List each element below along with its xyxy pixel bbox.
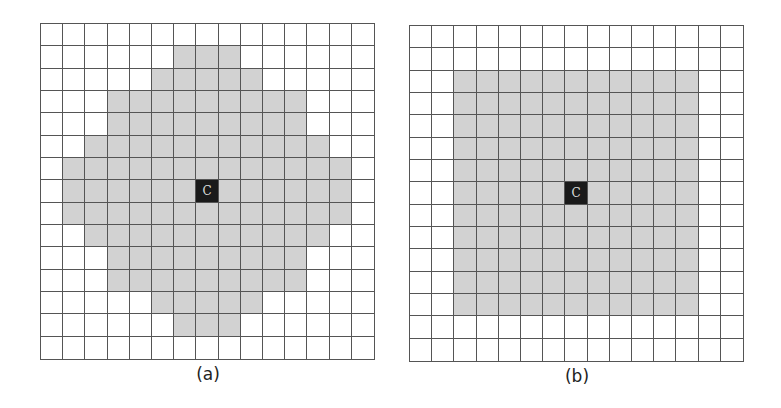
empty-cell [499,26,521,48]
neighborhood-cell [610,71,632,93]
empty-cell [63,91,85,113]
neighborhood-cell [654,294,676,316]
neighborhood-cell [219,158,241,180]
neighborhood-cell [307,180,329,202]
neighborhood-cell [174,270,196,292]
neighborhood-cell [454,227,476,249]
empty-cell [85,337,107,359]
empty-cell [352,292,374,314]
empty-cell [699,249,721,271]
neighborhood-cell [477,294,499,316]
neighborhood-cell [676,294,698,316]
empty-cell [432,294,454,316]
neighborhood-cell [588,160,610,182]
neighborhood-cell [263,247,285,269]
neighborhood-cell [565,138,587,160]
neighborhood-cell [565,71,587,93]
neighborhood-cell [477,205,499,227]
empty-cell [63,337,85,359]
neighborhood-cell [499,227,521,249]
empty-cell [152,46,174,68]
empty-cell [307,314,329,336]
empty-cell [85,113,107,135]
neighborhood-cell [654,272,676,294]
empty-cell [432,339,454,361]
neighborhood-cell [521,182,543,204]
neighborhood-cell [565,294,587,316]
empty-cell [432,160,454,182]
neighborhood-cell [285,136,307,158]
empty-cell [432,138,454,160]
empty-cell [352,203,374,225]
neighborhood-cell [130,203,152,225]
neighborhood-cell [543,71,565,93]
neighborhood-cell [241,69,263,91]
empty-cell [410,71,432,93]
neighborhood-cell [219,292,241,314]
empty-cell [330,247,352,269]
neighborhood-cell [174,247,196,269]
neighborhood-cell [454,249,476,271]
empty-cell [307,113,329,135]
empty-cell [521,339,543,361]
neighborhood-cell [477,138,499,160]
neighborhood-cell [285,113,307,135]
neighborhood-cell [85,158,107,180]
neighborhood-cell [152,247,174,269]
neighborhood-cell [454,71,476,93]
neighborhood-cell [108,158,130,180]
empty-cell [499,316,521,338]
empty-cell [108,337,130,359]
empty-cell [263,24,285,46]
neighborhood-cell [263,91,285,113]
empty-cell [410,205,432,227]
neighborhood-cell [499,205,521,227]
empty-cell [41,158,63,180]
empty-cell [330,314,352,336]
empty-cell [432,48,454,70]
empty-cell [454,26,476,48]
neighborhood-cell [174,136,196,158]
neighborhood-cell [499,249,521,271]
neighborhood-cell [174,69,196,91]
empty-cell [41,46,63,68]
empty-cell [454,48,476,70]
neighborhood-cell [632,160,654,182]
neighborhood-cell [241,247,263,269]
empty-cell [521,316,543,338]
neighborhood-cell [152,203,174,225]
neighborhood-cell [454,182,476,204]
empty-cell [699,182,721,204]
empty-cell [85,46,107,68]
empty-cell [352,225,374,247]
empty-cell [432,115,454,137]
empty-cell [352,113,374,135]
neighborhood-cell [241,203,263,225]
neighborhood-cell [196,113,218,135]
neighborhood-cell [588,272,610,294]
empty-cell [307,292,329,314]
empty-cell [588,26,610,48]
empty-cell [432,93,454,115]
empty-cell [721,138,743,160]
neighborhood-cell [241,113,263,135]
neighborhood-cell [307,136,329,158]
neighborhood-cell [588,182,610,204]
empty-cell [610,26,632,48]
neighborhood-cell [263,225,285,247]
empty-cell [721,115,743,137]
empty-cell [699,160,721,182]
neighborhood-cell [654,138,676,160]
empty-cell [721,249,743,271]
neighborhood-cell [521,249,543,271]
neighborhood-cell [632,205,654,227]
empty-cell [699,48,721,70]
neighborhood-cell [454,115,476,137]
empty-cell [330,270,352,292]
empty-cell [654,339,676,361]
empty-cell [676,48,698,70]
empty-cell [241,314,263,336]
neighborhood-cell [565,205,587,227]
neighborhood-cell [477,115,499,137]
neighborhood-cell [521,294,543,316]
